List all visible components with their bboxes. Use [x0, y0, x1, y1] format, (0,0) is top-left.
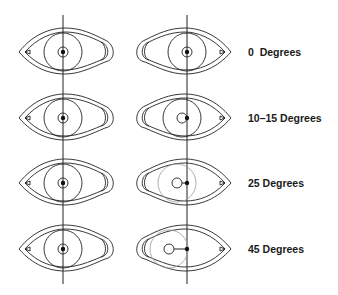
degree-label-row-2: 10–15 Degrees [248, 112, 322, 124]
left-eye-row-4 [19, 225, 113, 271]
left-eye-row-2 [19, 94, 113, 140]
right-eye-row-1 [137, 28, 231, 74]
right-eye-row-2 [137, 94, 231, 140]
right-eye-row-4 [137, 225, 231, 271]
eye-rotation-diagram: 0 Degrees 10–15 Degrees 25 Degrees 45 De… [0, 0, 338, 295]
left-eye-row-1 [19, 28, 113, 74]
degree-label-row-3: 25 Degrees [248, 177, 304, 189]
degree-label-row-4: 45 Degrees [248, 243, 304, 255]
right-eye-row-3 [137, 159, 231, 205]
degree-label-row-1: 0 Degrees [248, 46, 301, 58]
left-eye-row-3 [19, 159, 113, 205]
